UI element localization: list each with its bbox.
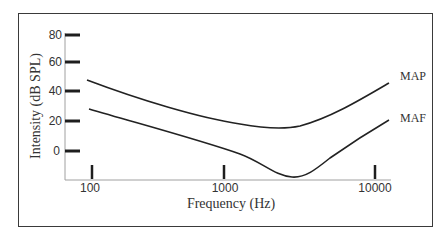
y-tick-label: 40 [49,84,63,98]
y-tick-labels: 80 60 40 20 0 [49,28,63,158]
chart-canvas: 80 60 40 20 0 100 1000 10000 Intensity (… [0,0,448,238]
series-maf-line [89,109,389,177]
y-tick-label: 80 [49,28,63,42]
y-tick-label: 20 [49,114,63,128]
x-axis-title: Frequency (Hz) [187,196,276,212]
series-label-map: MAP [400,69,426,83]
series-label-maf: MAF [400,111,426,125]
x-tick-labels: 100 1000 10000 [80,181,392,195]
x-tick-label: 100 [80,181,100,195]
x-tick-label: 10000 [358,181,392,195]
y-tick-label: 0 [53,144,60,158]
y-axis-title: Intensity (dB SPL) [28,53,44,159]
y-tick-label: 60 [49,55,63,69]
y-ticks [65,35,80,151]
x-ticks [92,165,375,179]
x-tick-label: 1000 [212,181,239,195]
